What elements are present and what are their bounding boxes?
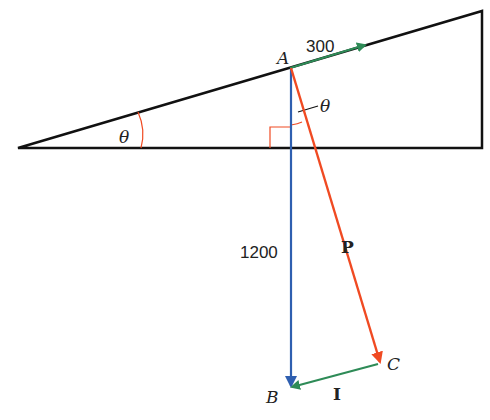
label-theta-base: θ bbox=[119, 127, 129, 147]
label-b: B bbox=[265, 387, 279, 407]
label-1200: 1200 bbox=[240, 243, 278, 262]
label-theta-apex: θ bbox=[320, 96, 330, 116]
angle-arc-apex bbox=[291, 122, 302, 125]
angle-arc-base bbox=[138, 112, 143, 148]
force-diagram: A 300 θ θ 1200 P C B I bbox=[0, 0, 490, 420]
label-a: A bbox=[275, 48, 289, 68]
inclined-plane bbox=[18, 11, 482, 148]
theta-leader bbox=[298, 106, 318, 112]
label-p: P bbox=[341, 237, 354, 257]
label-c: C bbox=[387, 354, 400, 374]
right-angle-marker bbox=[270, 127, 291, 148]
vector-p bbox=[291, 68, 380, 362]
label-i: I bbox=[333, 384, 341, 404]
diagram-canvas: A 300 θ θ 1200 P C B I bbox=[0, 0, 490, 420]
label-300: 300 bbox=[306, 37, 334, 56]
